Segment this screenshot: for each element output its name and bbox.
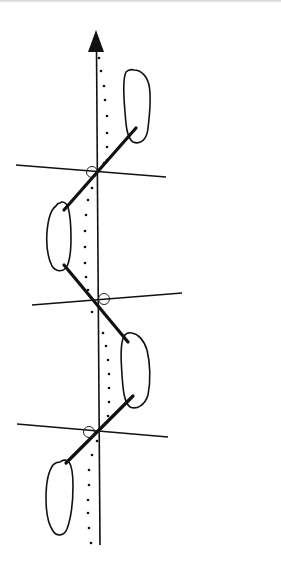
right-footprint-icon bbox=[121, 333, 150, 408]
right-footprint-icon bbox=[124, 70, 150, 143]
left-footprint-icon bbox=[47, 202, 71, 271]
progression-axis bbox=[88, 30, 104, 545]
arrow-up-icon bbox=[88, 30, 104, 52]
left-footprint-icon bbox=[46, 460, 73, 535]
marker-circle-3 bbox=[84, 427, 95, 438]
step-line-2 bbox=[64, 265, 128, 342]
step-line-1 bbox=[64, 128, 136, 210]
gait-diagram bbox=[0, 0, 281, 570]
